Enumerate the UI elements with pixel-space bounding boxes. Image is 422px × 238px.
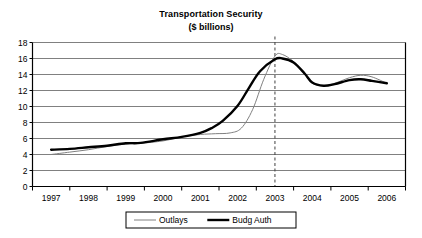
y-tick-label: 14 (18, 70, 28, 80)
x-tick-label: 1998 (79, 193, 98, 203)
x-tick-label: 2001 (191, 193, 210, 203)
series-line-outlays (51, 53, 387, 154)
y-axis-tick-labels: 024681012141618 (18, 38, 28, 192)
x-tick-label: 2003 (265, 193, 284, 203)
y-tick-label: 12 (18, 86, 28, 96)
y-tick-label: 10 (18, 102, 28, 112)
chart-legend: OutlaysBudg Auth (126, 212, 296, 228)
gridlines (33, 43, 406, 187)
legend-label-budg-auth: Budg Auth (232, 215, 272, 225)
x-tick-label: 2004 (303, 193, 322, 203)
y-tick-label: 4 (23, 150, 28, 160)
x-tick-label: 1999 (116, 193, 135, 203)
axis-lines (33, 43, 406, 187)
plot-area: 024681012141618 199719981999200020012002… (0, 0, 422, 238)
x-tick-label: 2000 (154, 193, 173, 203)
y-tick-label: 8 (23, 118, 28, 128)
x-tick-label: 2005 (340, 193, 359, 203)
y-tick-label: 6 (23, 134, 28, 144)
series-line-budg-auth (51, 58, 387, 150)
data-series (51, 53, 387, 154)
x-tick-label: 2006 (377, 193, 396, 203)
x-axis-tick-labels: 1997199819992000200120022003200420052006 (42, 193, 397, 203)
y-tick-label: 0 (23, 182, 28, 192)
x-axis-tick-marks (33, 187, 406, 191)
y-tick-label: 2 (23, 166, 28, 176)
y-tick-label: 16 (18, 54, 28, 64)
x-tick-label: 2002 (228, 193, 247, 203)
x-tick-label: 1997 (42, 193, 61, 203)
y-tick-label: 18 (18, 38, 28, 48)
chart-container: Transportation Security ($ billions) 024… (0, 0, 422, 238)
legend-label-outlays: Outlays (159, 215, 188, 225)
